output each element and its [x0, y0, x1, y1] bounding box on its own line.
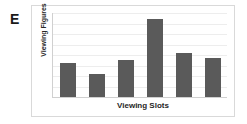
bar-series [53, 13, 227, 97]
bar [176, 53, 192, 97]
x-axis-line [52, 97, 227, 98]
bar [118, 60, 134, 97]
bar [89, 74, 105, 97]
x-axis-title: Viewing Slots [52, 100, 234, 112]
panel-letter: E [10, 10, 28, 28]
chart-frame: Viewing Figures Viewing Slots [31, 5, 235, 117]
bar [205, 58, 221, 97]
plot-area [52, 13, 227, 98]
bar [147, 19, 163, 97]
bar [60, 63, 76, 97]
y-axis-title: Viewing Figures [38, 0, 50, 62]
